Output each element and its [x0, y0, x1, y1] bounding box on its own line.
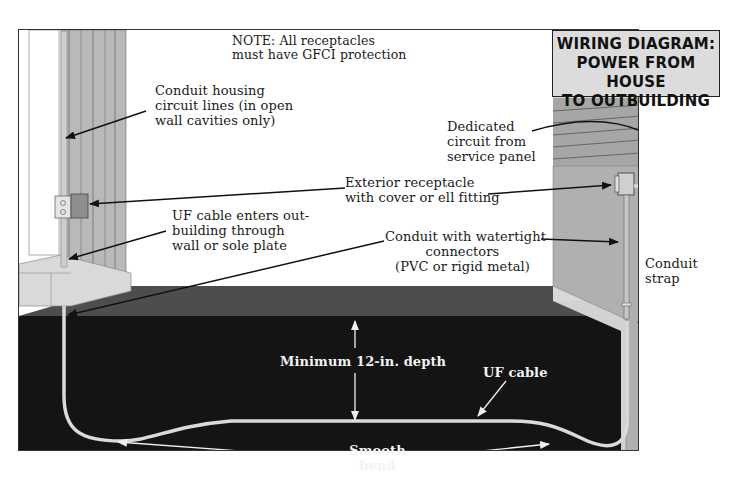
- gfci-note: NOTE: All receptacles must have GFCI pro…: [232, 34, 406, 62]
- callout-line: wall cavities only): [155, 113, 275, 128]
- callout-line: with cover or ell fitting: [345, 190, 500, 205]
- title-line-3: TO OUTBUILDING: [553, 92, 719, 111]
- callout-line: service panel: [447, 149, 536, 164]
- title-line-2: POWER FROM HOUSE: [553, 54, 719, 92]
- callout-exterior-receptacle: Exterior receptacle with cover or ell fi…: [345, 175, 500, 205]
- callout-conduit-watertight: Conduit with watertight connectors (PVC …: [385, 229, 540, 274]
- diagram-title-box: WIRING DIAGRAM: POWER FROM HOUSE TO OUTB…: [552, 30, 720, 97]
- callout-conduit-housing: Conduit housing circuit lines (in open w…: [155, 83, 293, 128]
- smooth-bend-line-2: bend: [359, 458, 395, 473]
- callout-line: (PVC or rigid metal): [395, 259, 530, 274]
- title-line-1: WIRING DIAGRAM:: [553, 35, 719, 54]
- callout-line: Dedicated: [447, 119, 515, 134]
- outbuilding: [19, 30, 131, 306]
- callout-uf-enters: UF cable enters out- building through wa…: [172, 208, 309, 253]
- callout-line: Exterior receptacle: [345, 175, 475, 190]
- callout-conduit-strap: Conduit strap: [645, 256, 698, 286]
- callout-line: Conduit with watertight: [385, 229, 546, 244]
- smooth-bend-line-1: Smooth: [349, 443, 406, 458]
- label-minimum-depth: Minimum 12-in. depth: [280, 355, 446, 369]
- label-uf-cable: UF cable: [483, 366, 548, 380]
- callout-line: Conduit housing: [155, 83, 265, 98]
- callout-line: wall or sole plate: [172, 238, 287, 253]
- callout-line: Conduit: [645, 256, 698, 271]
- callout-line: circuit from: [447, 134, 526, 149]
- note-line-2: must have GFCI protection: [232, 47, 406, 62]
- soil-section: [19, 316, 639, 451]
- callout-line: connectors: [426, 244, 500, 259]
- callout-dedicated-circuit: Dedicated circuit from service panel: [447, 119, 536, 164]
- callout-line: building through: [172, 223, 285, 238]
- wiring-illustration: [19, 30, 639, 451]
- label-smooth-bend: Smooth bend: [345, 443, 410, 473]
- callout-line: circuit lines (in open: [155, 98, 293, 113]
- callout-line: strap: [645, 271, 680, 286]
- callout-line: UF cable enters out-: [172, 208, 309, 223]
- note-line-1: NOTE: All receptacles: [232, 33, 375, 48]
